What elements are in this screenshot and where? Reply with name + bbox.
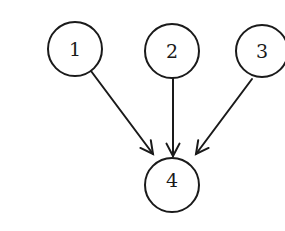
- nodes-group: 1234: [48, 22, 285, 212]
- edge-line: [91, 71, 153, 154]
- node-label: 2: [166, 40, 178, 62]
- node-2: 2: [145, 24, 199, 78]
- edge-3-to-4: [196, 79, 252, 154]
- node-label: 4: [166, 169, 178, 191]
- node-label: 1: [69, 38, 81, 60]
- node-4: 4: [145, 158, 199, 212]
- node-label: 3: [256, 40, 268, 62]
- edges-group: [91, 71, 252, 156]
- edge-line: [196, 79, 252, 154]
- edge-1-to-4: [91, 71, 153, 154]
- dependency-diagram: 1234: [0, 0, 285, 231]
- node-3: 3: [236, 25, 285, 77]
- edge-2-to-4: [166, 78, 179, 156]
- node-1: 1: [48, 22, 102, 76]
